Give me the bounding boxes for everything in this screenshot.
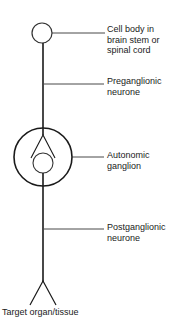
cell-body-circle [32, 23, 52, 43]
ganglion-cell-body [33, 153, 53, 173]
label-target: Target organ/tissue [2, 307, 79, 318]
label-postganglionic: Postganglionic neurone [107, 222, 166, 243]
synapse-terminal [31, 135, 55, 158]
label-ganglion: Autonomic ganglion [107, 150, 150, 171]
label-preganglionic: Preganglionic neurone [107, 76, 162, 97]
label-cell-body: Cell body in brain stem or spinal cord [107, 24, 160, 56]
target-fork [30, 281, 56, 305]
